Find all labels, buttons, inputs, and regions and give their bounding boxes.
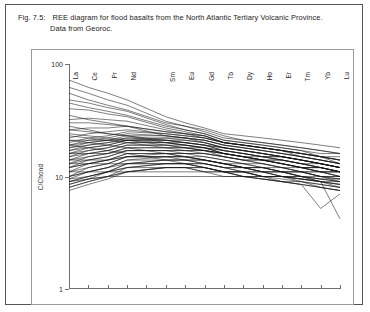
ree-series-line — [69, 148, 340, 177]
x-tick-mark — [88, 285, 89, 289]
x-tick-mark — [127, 285, 128, 289]
x-tick-mark — [185, 285, 186, 289]
ree-series-line — [69, 154, 340, 179]
x-tick-mark — [301, 285, 302, 289]
caption-line-2: Data from Georoc. — [18, 23, 358, 34]
ree-series-line — [69, 136, 340, 172]
y-axis-label: C/Chond — [37, 164, 44, 191]
x-tick-label: Sm — [169, 72, 176, 82]
caption-line-1: Fig. 7.5: REE diagram for flood basalts … — [18, 12, 358, 23]
figure-caption: Fig. 7.5: REE diagram for flood basalts … — [18, 12, 358, 34]
plot-panel: C/Chond 100101LaCePrNdSmEuGdTbDyHoErTmYb… — [31, 49, 354, 305]
plot-area: 100101LaCePrNdSmEuGdTbDyHoErTmYbLu — [69, 64, 340, 289]
x-tick-label: Eu — [188, 72, 195, 80]
x-tick-label: Tm — [304, 72, 311, 82]
figure-number: Fig. 7.5: — [18, 12, 53, 23]
ree-curves — [69, 64, 340, 289]
x-tick-mark — [224, 285, 225, 289]
x-tick-label: Ce — [91, 72, 98, 80]
x-tick-label: Nd — [130, 72, 137, 80]
x-tick-mark — [166, 285, 167, 289]
x-tick-label: La — [72, 72, 79, 79]
ree-series-line — [69, 126, 340, 172]
x-tick-mark — [243, 285, 244, 289]
x-tick-label: Lu — [343, 72, 350, 79]
ree-series-line — [69, 157, 340, 185]
x-tick-label: Dy — [246, 72, 253, 80]
x-tick-mark — [205, 285, 206, 289]
y-tick-label: 10 — [55, 173, 63, 180]
ree-series-line — [69, 160, 340, 176]
ree-series-line — [69, 109, 340, 157]
x-tick-mark — [282, 285, 283, 289]
y-tick-mark — [65, 289, 69, 290]
y-tick-mark — [65, 64, 69, 65]
x-tick-label: Ho — [266, 72, 273, 80]
ree-series-line — [69, 157, 340, 182]
y-tick-label: 1 — [59, 286, 63, 293]
x-tick-mark — [263, 285, 264, 289]
x-tick-mark — [108, 285, 109, 289]
figure-frame: Fig. 7.5: REE diagram for flood basalts … — [5, 4, 363, 305]
ree-series-line — [69, 87, 340, 153]
ree-series-line — [69, 157, 340, 219]
ree-series-line — [69, 157, 340, 182]
ree-series-line — [69, 160, 340, 187]
ree-series-line — [69, 123, 340, 164]
ree-series-line — [69, 164, 340, 209]
x-tick-label: Tb — [227, 72, 234, 80]
x-tick-label: Gd — [208, 72, 215, 81]
x-tick-label: Pr — [111, 72, 118, 79]
x-tick-mark — [69, 285, 70, 289]
caption-text: REE diagram for flood basalts from the N… — [53, 12, 358, 23]
y-tick-mark — [65, 177, 69, 178]
x-tick-mark — [321, 285, 322, 289]
x-tick-label: Er — [285, 72, 292, 79]
x-tick-label: Yb — [324, 72, 331, 80]
x-tick-mark — [340, 285, 341, 289]
x-tick-mark — [146, 285, 147, 289]
y-tick-label: 100 — [51, 61, 63, 68]
